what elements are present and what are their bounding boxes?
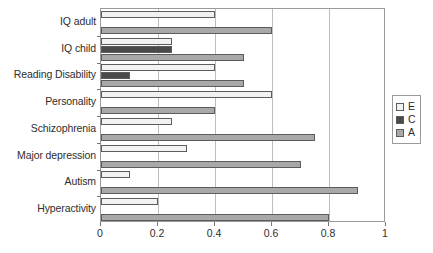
chart-legend: ECA <box>392 95 421 144</box>
y-axis-label-autism: Autism <box>0 176 96 187</box>
x-axis: 00.20.40.60.81 <box>100 222 385 242</box>
y-axis-label-personality: Personality <box>0 96 96 107</box>
bar-a-reading-disability <box>101 80 244 87</box>
x-axis-tick <box>271 222 272 226</box>
x-axis-tick-label: 0 <box>97 227 103 239</box>
bar-chart-figure: IQ adultIQ childReading DisabilityPerson… <box>0 0 433 253</box>
x-axis-tick <box>328 222 329 226</box>
x-axis-tick-label: 1 <box>382 227 388 239</box>
legend-item-e: E <box>396 100 416 113</box>
bar-e-major-depression <box>101 145 187 152</box>
legend-label-a: A <box>408 127 415 138</box>
x-axis-tick <box>214 222 215 226</box>
bar-e-iq-child <box>101 38 172 45</box>
legend-item-a: A <box>396 126 416 139</box>
y-axis-label-hyperactivity: Hyperactivity <box>0 203 96 214</box>
y-axis-tick <box>97 196 101 197</box>
bar-a-autism <box>101 187 358 194</box>
bar-e-iq-adult <box>101 11 215 18</box>
y-axis-tick <box>97 170 101 171</box>
bar-a-iq-adult <box>101 27 272 34</box>
y-axis-tick <box>97 116 101 117</box>
x-axis-tick <box>157 222 158 226</box>
plot-area <box>100 8 385 222</box>
x-axis-tick-label: 0.4 <box>207 227 222 239</box>
x-axis-tick <box>100 222 101 226</box>
bar-e-hyperactivity <box>101 198 158 205</box>
y-axis-tick <box>97 89 101 90</box>
bar-c-reading-disability <box>101 72 130 79</box>
x-axis-tick <box>385 222 386 226</box>
bar-e-autism <box>101 171 130 178</box>
bar-a-iq-child <box>101 54 244 61</box>
bar-e-reading-disability <box>101 64 215 71</box>
x-axis-tick-label: 0.8 <box>321 227 336 239</box>
legend-swatch-c-icon <box>396 116 404 124</box>
y-axis-category-labels: IQ adultIQ childReading DisabilityPerson… <box>0 8 96 222</box>
bar-e-personality <box>101 91 272 98</box>
bar-c-iq-child <box>101 46 172 53</box>
legend-label-c: C <box>408 114 416 125</box>
y-axis-label-major-depression: Major depression <box>0 150 96 161</box>
bar-series-container <box>101 9 384 221</box>
y-axis-tick <box>97 36 101 37</box>
legend-label-e: E <box>408 101 415 112</box>
y-axis-label-iq-adult: IQ adult <box>0 16 96 27</box>
bar-a-major-depression <box>101 161 301 168</box>
y-axis-label-schizophrenia: Schizophrenia <box>0 123 96 134</box>
legend-item-c: C <box>396 113 416 126</box>
figure-caption <box>8 245 428 253</box>
legend-swatch-a-icon <box>396 129 404 137</box>
y-axis-tick <box>97 63 101 64</box>
bar-a-hyperactivity <box>101 214 329 221</box>
bar-e-schizophrenia <box>101 118 172 125</box>
x-axis-tick-label: 0.2 <box>150 227 165 239</box>
bar-a-personality <box>101 107 215 114</box>
bar-a-schizophrenia <box>101 134 315 141</box>
y-axis-label-reading-disability: Reading Disability <box>0 69 96 80</box>
legend-swatch-e-icon <box>396 103 404 111</box>
y-axis-tick <box>97 143 101 144</box>
x-axis-tick-label: 0.6 <box>264 227 279 239</box>
y-axis-label-iq-child: IQ child <box>0 43 96 54</box>
